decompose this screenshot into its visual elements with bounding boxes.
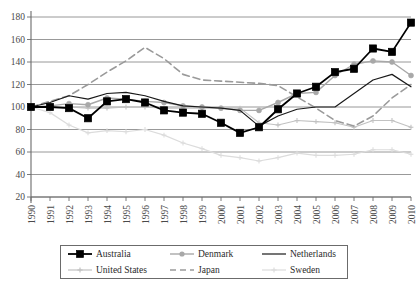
y-axis-tick-label: 160 bbox=[11, 35, 26, 45]
legend-swatch-australia bbox=[67, 248, 93, 260]
x-axis-tick-label: 1999 bbox=[198, 205, 208, 224]
x-axis-tick-label: 1995 bbox=[122, 205, 132, 224]
data-point-marker bbox=[257, 108, 262, 113]
legend-swatch-sweden bbox=[261, 264, 287, 276]
legend-item-united-states: United States bbox=[61, 262, 169, 278]
data-point-marker bbox=[407, 19, 414, 26]
x-axis-tick-label: 2000 bbox=[217, 205, 227, 224]
y-axis-tick-label: 80 bbox=[16, 125, 26, 135]
y-axis-tick-label: 40 bbox=[16, 170, 26, 180]
x-axis-tick-label: 2001 bbox=[236, 205, 246, 224]
legend-label: Japan bbox=[198, 265, 220, 275]
legend-item-australia: Australia bbox=[61, 246, 169, 262]
line-chart: 2040608010012014016018019901991199219931… bbox=[0, 0, 418, 283]
data-point-marker bbox=[388, 48, 395, 55]
x-axis-tick-label: 1993 bbox=[84, 205, 94, 224]
data-point-marker bbox=[371, 58, 376, 63]
x-axis-tick-label: 2002 bbox=[255, 205, 265, 224]
legend-marker bbox=[77, 251, 84, 258]
y-axis-tick-label: 180 bbox=[11, 12, 26, 22]
data-point-marker bbox=[141, 99, 148, 106]
x-axis-tick-label: 2010 bbox=[407, 205, 417, 224]
data-point-marker bbox=[331, 69, 338, 76]
data-point-marker bbox=[179, 109, 186, 116]
data-point-marker bbox=[312, 83, 319, 90]
y-axis-tick-label: 120 bbox=[11, 80, 26, 90]
data-point-marker bbox=[409, 73, 414, 78]
legend-marker bbox=[179, 251, 184, 256]
x-axis-tick-label: 2006 bbox=[331, 205, 341, 224]
data-point-marker bbox=[122, 96, 129, 103]
x-axis-tick-label: 1996 bbox=[141, 205, 151, 224]
x-axis-tick-label: 1991 bbox=[46, 205, 56, 224]
data-point-marker bbox=[255, 124, 262, 131]
x-axis-tick-label: 2005 bbox=[312, 205, 322, 224]
x-axis-tick-label: 1990 bbox=[27, 205, 37, 224]
data-point-marker bbox=[160, 107, 167, 114]
y-axis-tick-label: 100 bbox=[11, 102, 26, 112]
data-point-marker bbox=[369, 45, 376, 52]
series-sweden bbox=[29, 105, 414, 164]
x-axis-tick-label: 2004 bbox=[293, 205, 303, 224]
legend-label: Sweden bbox=[290, 265, 320, 275]
x-axis-tick-label: 1997 bbox=[160, 205, 170, 224]
data-point-marker bbox=[276, 100, 281, 105]
data-point-marker bbox=[103, 98, 110, 105]
chart-plot-area: 2040608010012014016018019901991199219931… bbox=[0, 0, 418, 283]
data-point-marker bbox=[274, 106, 281, 113]
data-point-marker bbox=[236, 129, 243, 136]
legend-label: Denmark bbox=[198, 249, 233, 259]
legend-label: United States bbox=[96, 265, 147, 275]
data-point-marker bbox=[198, 110, 205, 117]
x-axis-tick-label: 2003 bbox=[274, 205, 284, 224]
legend-swatch-united-states bbox=[67, 264, 93, 276]
y-axis-tick-label: 20 bbox=[16, 192, 26, 202]
legend-item-denmark: Denmark bbox=[169, 246, 261, 262]
y-axis-tick-label: 60 bbox=[16, 147, 26, 157]
data-point-marker bbox=[86, 102, 91, 107]
data-point-marker bbox=[84, 115, 91, 122]
data-point-marker bbox=[27, 103, 34, 110]
y-axis-tick-label: 140 bbox=[11, 57, 26, 67]
data-point-marker bbox=[350, 65, 357, 72]
x-axis-tick-label: 1994 bbox=[103, 205, 113, 224]
legend-item-japan: Japan bbox=[169, 262, 261, 278]
legend-swatch-netherlands bbox=[261, 248, 287, 260]
legend-swatch-denmark bbox=[169, 248, 195, 260]
x-axis-tick-label: 2007 bbox=[350, 205, 360, 224]
data-point-marker bbox=[217, 119, 224, 126]
data-point-marker bbox=[46, 103, 53, 110]
x-axis-tick-label: 1992 bbox=[65, 205, 75, 224]
legend-item-netherlands: Netherlands bbox=[261, 246, 347, 262]
legend-swatch-japan bbox=[169, 264, 195, 276]
chart-legend: Australia Denmark Netherlands United Sta… bbox=[60, 245, 348, 279]
x-axis-tick-label: 2008 bbox=[369, 205, 379, 224]
legend-label: Australia bbox=[96, 249, 131, 259]
data-point-marker bbox=[65, 105, 72, 112]
legend-item-sweden: Sweden bbox=[261, 262, 347, 278]
data-point-marker bbox=[293, 90, 300, 97]
x-axis-tick-label: 2009 bbox=[388, 205, 398, 224]
x-axis-tick-label: 1998 bbox=[179, 205, 189, 224]
data-point-marker bbox=[390, 60, 395, 65]
series-australia bbox=[27, 19, 414, 136]
legend-label: Netherlands bbox=[290, 249, 336, 259]
